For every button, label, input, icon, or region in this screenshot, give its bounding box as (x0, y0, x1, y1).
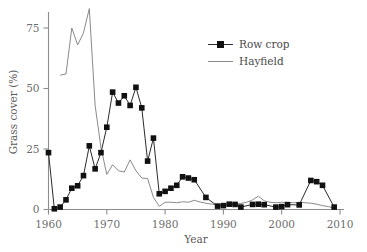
data-point-marker (174, 183, 180, 189)
data-point-marker (46, 150, 52, 156)
y-tick-label: 25 (26, 143, 39, 155)
data-point-marker (279, 204, 285, 210)
chart-canvas: 0255075 Grass cover (%) 1960197019801990… (0, 0, 367, 252)
data-point-marker (256, 201, 262, 207)
legend-label-hayfield: Hayfield (239, 55, 284, 67)
x-tick-label: 2000 (268, 218, 295, 230)
data-point-marker (261, 202, 267, 208)
series-line-hayfield (60, 9, 334, 208)
y-tick-label: 50 (26, 82, 39, 94)
plot-area (46, 9, 337, 212)
data-point-marker (168, 185, 174, 191)
x-tick-label: 1980 (152, 218, 179, 230)
data-point-marker (203, 195, 209, 201)
x-tick-label: 1990 (210, 218, 237, 230)
data-point-marker (273, 204, 279, 210)
y-axis: 0255075 Grass cover (%) (7, 12, 49, 215)
grass-cover-chart: 0255075 Grass cover (%) 1960197019801990… (0, 0, 367, 252)
data-point-marker (296, 202, 302, 208)
data-point-marker (191, 177, 197, 183)
data-point-marker (162, 189, 168, 195)
data-point-marker (87, 143, 93, 149)
data-point-marker (121, 93, 127, 99)
series-markers-row-crop (46, 84, 337, 211)
x-tick-group: 196019701980199020002010 (35, 210, 353, 230)
y-tick-label: 75 (26, 22, 39, 34)
data-point-marker (52, 206, 58, 212)
legend-marker-row-crop (217, 41, 224, 48)
data-point-marker (250, 202, 256, 208)
x-tick-label: 2010 (327, 218, 354, 230)
data-point-marker (186, 175, 192, 181)
data-point-marker (331, 204, 337, 210)
data-point-marker (127, 103, 133, 109)
x-axis-title: Year (183, 233, 208, 245)
data-point-marker (81, 173, 87, 179)
legend-label-row-crop: Row crop (239, 38, 290, 50)
data-point-marker (221, 203, 227, 209)
data-point-marker (156, 191, 162, 197)
data-point-marker (180, 174, 186, 180)
data-point-marker (226, 201, 232, 207)
data-point-marker (104, 124, 110, 130)
data-point-marker (238, 204, 244, 210)
x-tick-label: 1970 (93, 218, 120, 230)
data-point-marker (314, 179, 320, 185)
chart-legend: Row crop Hayfield (208, 38, 290, 67)
x-axis: 196019701980199020002010 Year (35, 210, 353, 246)
data-point-marker (232, 202, 238, 208)
data-point-marker (75, 183, 81, 189)
data-point-marker (110, 89, 116, 95)
y-axis-title: Grass cover (%) (7, 70, 19, 155)
data-point-marker (57, 204, 63, 210)
data-point-marker (145, 158, 151, 164)
data-point-marker (92, 166, 98, 172)
y-tick-group: 0255075 (26, 22, 48, 216)
y-tick-label: 0 (33, 203, 40, 215)
data-point-marker (215, 203, 221, 209)
data-point-marker (151, 135, 157, 141)
x-tick-label: 1960 (35, 218, 62, 230)
data-point-marker (308, 178, 314, 184)
data-point-marker (116, 100, 122, 106)
data-point-marker (139, 105, 145, 111)
data-point-marker (133, 84, 139, 90)
data-point-marker (320, 183, 326, 189)
data-point-marker (69, 185, 75, 191)
data-point-marker (98, 150, 104, 156)
data-point-marker (63, 197, 69, 203)
data-point-marker (285, 202, 291, 208)
